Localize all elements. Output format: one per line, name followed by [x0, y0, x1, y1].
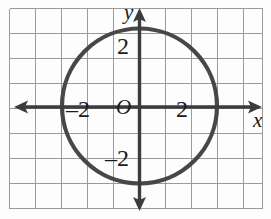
x-axis-label: x: [253, 110, 262, 131]
y-tick-label-positive-2: 2: [117, 34, 129, 58]
y-tick-label-negative-2: –2: [105, 146, 129, 170]
y-axis-label: y: [124, 2, 133, 23]
x-tick-label-negative-2: –2: [66, 97, 90, 121]
origin-label: O: [116, 97, 131, 118]
x-tick-label-positive-2: 2: [176, 97, 188, 121]
axes: [18, 14, 258, 203]
coordinate-plane-svg: [0, 0, 271, 219]
coordinate-plane-figure: y x O 2 –2 –2 2: [0, 0, 271, 219]
